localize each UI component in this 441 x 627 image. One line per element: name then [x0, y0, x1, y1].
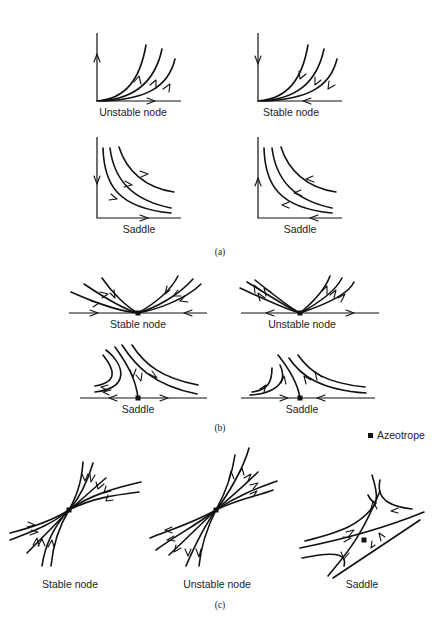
b-stable-node-plot: [69, 276, 207, 316]
a-stable-node-label: Stable node: [263, 106, 319, 118]
phase-portrait-diagram: [0, 0, 441, 627]
b-saddle-left-label: Saddle: [122, 403, 155, 415]
b-saddle-right-label: Saddle: [286, 403, 319, 415]
a-unstable-node-label: Unstable node: [99, 106, 167, 118]
c-unstable-node-label: Unstable node: [183, 578, 251, 590]
azeotrope-legend: Azeotrope: [368, 429, 425, 441]
c-stable-node-plot: [10, 462, 141, 566]
c-saddle-label: Saddle: [346, 578, 379, 590]
azeotrope-square-icon: [368, 433, 373, 438]
azeotrope-legend-label: Azeotrope: [377, 429, 425, 441]
b-saddle-left-plot: [80, 345, 207, 401]
a-saddle-right-plot: [255, 137, 342, 221]
a-saddle-left-plot: [94, 137, 181, 221]
b-stable-node-label: Stable node: [110, 318, 166, 330]
b-saddle-right-plot: [241, 355, 375, 401]
b-caption: (b): [214, 423, 225, 433]
a-stable-node-plot: [255, 33, 342, 104]
c-stable-node-label: Stable node: [42, 578, 98, 590]
b-unstable-node-plot: [240, 276, 379, 316]
a-unstable-node-plot: [94, 33, 181, 104]
b-unstable-node-label: Unstable node: [268, 318, 336, 330]
c-unstable-node-plot: [150, 448, 277, 566]
c-saddle-plot: [300, 475, 424, 578]
a-caption: (a): [215, 247, 226, 257]
c-caption: (c): [215, 600, 226, 610]
a-saddle-left-label: Saddle: [123, 223, 156, 235]
a-saddle-right-label: Saddle: [284, 223, 317, 235]
